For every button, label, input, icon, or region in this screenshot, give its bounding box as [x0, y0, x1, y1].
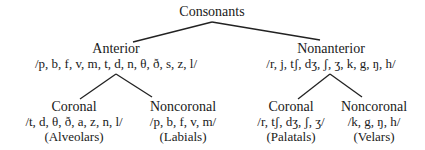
nonanterior-label: Nonanterior — [266, 41, 395, 56]
branch-nonanterior-coronal — [298, 74, 330, 99]
anterior-phoneme-set: /p, b, f, v, m, t, d, n, θ, ð, s, z, l/ — [35, 56, 197, 71]
velar-phoneme-set: /k, g, ŋ, h/ — [341, 114, 407, 129]
coronal-label: Coronal — [25, 99, 122, 114]
node-nonanterior-noncoronal: Noncoronal /k, g, ŋ, h/ (Velars) — [341, 99, 407, 144]
branch-root-anterior — [133, 22, 212, 42]
nonanterior-phoneme-set: /r, j, tʃ, dʒ, ʃ, ʒ, k, g, ŋ, h/ — [266, 56, 395, 71]
node-consonants: Consonants — [179, 4, 244, 19]
labials-group: (Labials) — [150, 129, 216, 144]
palatals-group: (Palatals) — [257, 129, 324, 144]
node-nonanterior: Nonanterior /r, j, tʃ, dʒ, ʃ, ʒ, k, g, ŋ… — [266, 41, 395, 71]
branch-nonanterior-noncoronal — [330, 74, 362, 97]
root-label: Consonants — [179, 4, 244, 19]
anterior-label: Anterior — [35, 41, 197, 56]
node-nonanterior-coronal: Coronal /r, tʃ, dʒ, ʃ, ʒ/ (Palatals) — [257, 99, 324, 144]
velars-group: (Velars) — [341, 129, 407, 144]
alveolars-group: (Alveolars) — [25, 129, 122, 144]
node-anterior-noncoronal: Noncoronal /p, b, f, v, m/ (Labials) — [150, 99, 216, 144]
alveolar-phoneme-set: /t, d, θ, ð, a, z, n, l/ — [25, 114, 122, 129]
branch-anterior-noncoronal — [116, 74, 152, 97]
noncoronal-label: Noncoronal — [150, 99, 216, 114]
noncoronal-label: Noncoronal — [341, 99, 407, 114]
branch-root-nonanterior — [212, 22, 320, 40]
node-anterior: Anterior /p, b, f, v, m, t, d, n, θ, ð, … — [35, 41, 197, 71]
coronal-label: Coronal — [257, 99, 324, 114]
labial-phoneme-set: /p, b, f, v, m/ — [150, 114, 216, 129]
palatal-phoneme-set: /r, tʃ, dʒ, ʃ, ʒ/ — [257, 114, 324, 129]
branch-anterior-coronal — [80, 74, 116, 99]
node-anterior-coronal: Coronal /t, d, θ, ð, a, z, n, l/ (Alveol… — [25, 99, 122, 144]
